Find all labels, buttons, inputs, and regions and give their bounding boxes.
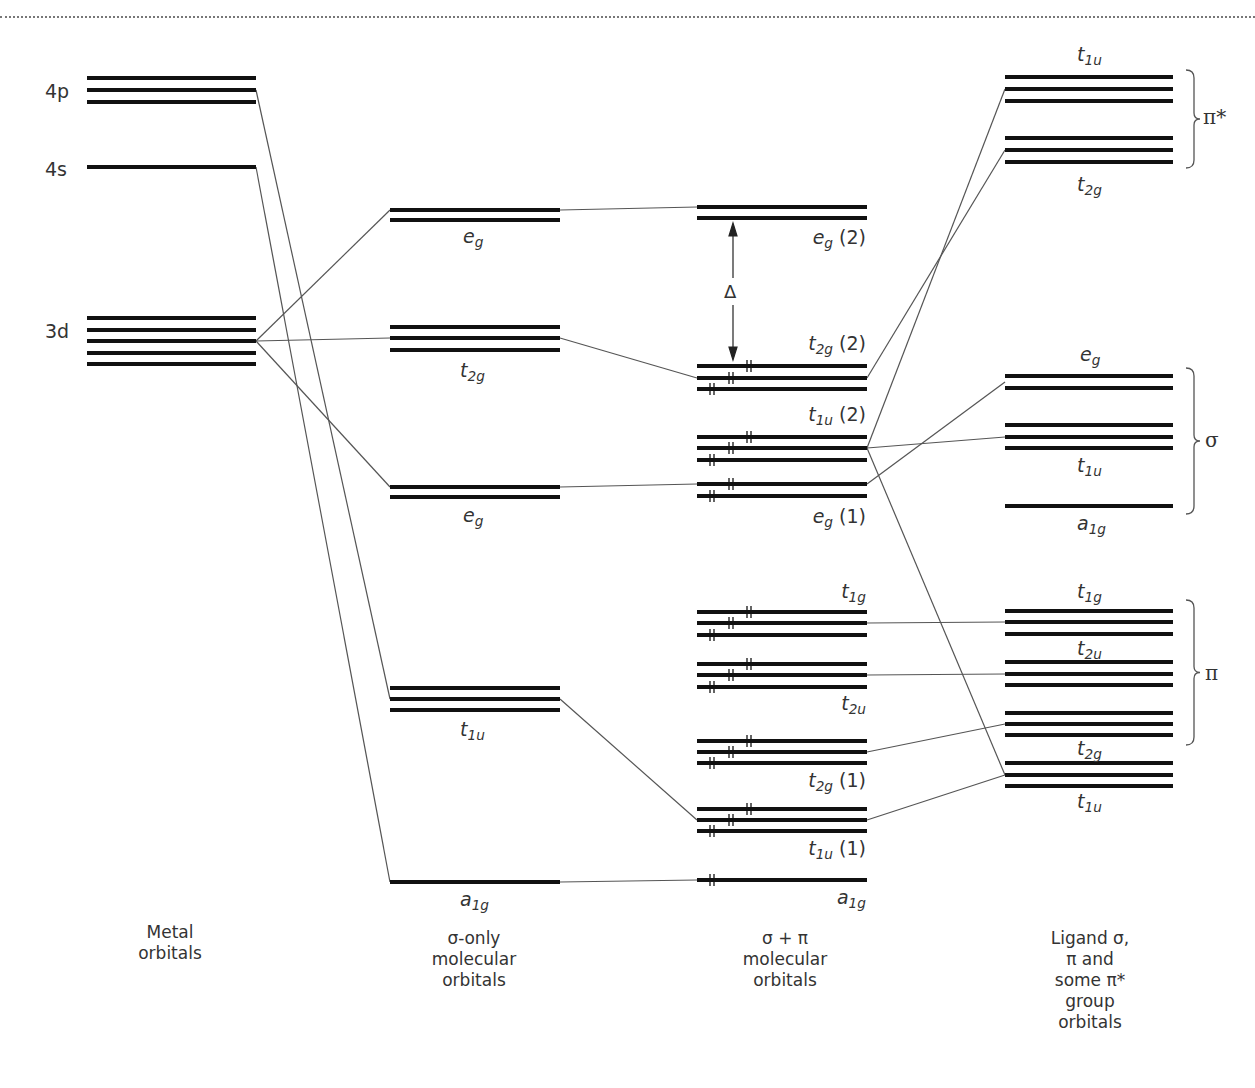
sigma-only-label-eg-upper: eg xyxy=(463,227,483,250)
caption-ligand-orbitals: Ligand σ,π andsome π*grouporbitals xyxy=(990,928,1190,1033)
correlation-lines xyxy=(256,89,1005,882)
correlation-line xyxy=(560,207,697,210)
sigma-pi-label-eg1: eg (1) xyxy=(813,507,866,530)
brace-label-sigma: σ xyxy=(1205,428,1219,452)
sigma-pi-label-t2g1: t2g (1) xyxy=(808,771,866,794)
ligand-label-t2g-pi: t2g xyxy=(1077,739,1102,762)
caption-sigma-only: σ-onlymolecularorbitals xyxy=(374,928,574,991)
group-braces xyxy=(1186,70,1200,745)
correlation-line xyxy=(867,448,1005,775)
correlation-line xyxy=(867,437,1005,448)
correlation-line xyxy=(867,382,1005,484)
correlation-line xyxy=(867,150,1005,378)
caption-sigma-pi: σ + πmolecularorbitals xyxy=(685,928,885,991)
correlation-line xyxy=(867,89,1005,448)
ligand-label-eg-sigma: eg xyxy=(1080,345,1100,368)
sigma-only-label-a1g: a1g xyxy=(460,890,489,913)
sigma-pi-label-a1g: a1g xyxy=(837,888,866,911)
ligand-label-t1g-pi: t1g xyxy=(1077,582,1102,605)
curly-brace xyxy=(1186,70,1200,168)
correlation-line xyxy=(560,699,697,820)
brace-label-pistar: π* xyxy=(1203,105,1226,129)
sigma-pi-label-t1u1: t1u (1) xyxy=(808,839,866,862)
ligand-label-t2u-pi: t2u xyxy=(1077,639,1102,662)
correlation-line xyxy=(256,90,390,699)
correlation-line xyxy=(867,622,1005,623)
delta-label: Δ xyxy=(724,283,736,301)
sigma-pi-label-t2u: t2u xyxy=(841,694,866,717)
curly-brace xyxy=(1186,600,1200,745)
ligand-label-t2g-pistar: t2g xyxy=(1077,175,1102,198)
correlation-line xyxy=(256,338,390,341)
sigma-only-label-t2g: t2g xyxy=(460,361,485,384)
sigma-pi-label-t1u2: t1u (2) xyxy=(808,405,866,428)
caption-metal-orbitals: Metalorbitals xyxy=(70,922,270,964)
correlation-line xyxy=(867,775,1005,820)
ligand-label-t1u-pi: t1u xyxy=(1077,792,1102,815)
correlation-line xyxy=(867,724,1005,752)
brace-label-pi: π xyxy=(1205,661,1218,685)
sigma-pi-label-eg2: eg (2) xyxy=(813,228,866,251)
sigma-only-label-eg-lower: eg xyxy=(463,506,483,529)
curly-brace xyxy=(1186,368,1200,514)
metal-label-4p: 4p xyxy=(45,82,69,101)
ligand-label-t1u-pistar: t1u xyxy=(1077,45,1102,68)
correlation-line xyxy=(256,341,390,487)
metal-label-4s: 4s xyxy=(45,160,67,179)
sigma-only-label-t1u: t1u xyxy=(460,720,485,743)
correlation-line xyxy=(256,167,390,882)
correlation-line xyxy=(867,674,1005,675)
sigma-pi-label-t2g2: t2g (2) xyxy=(808,334,866,357)
metal-label-3d: 3d xyxy=(45,322,69,341)
correlation-line xyxy=(560,484,697,487)
sigma-pi-label-t1g: t1g xyxy=(841,582,866,605)
ligand-label-t1u-sigma: t1u xyxy=(1077,456,1102,479)
correlation-line xyxy=(560,880,697,882)
correlation-line xyxy=(560,338,697,378)
ligand-label-a1g-sigma: a1g xyxy=(1077,514,1106,537)
